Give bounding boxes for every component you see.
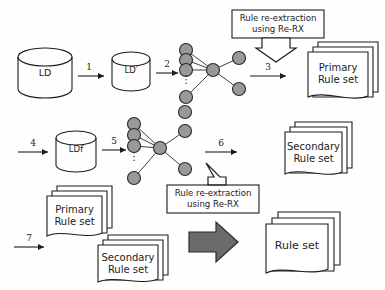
arrow-step-5	[102, 147, 126, 153]
document-stack-final	[266, 212, 340, 273]
block-arrow-right	[189, 222, 238, 262]
network-node	[233, 52, 246, 65]
neural-network-2	[128, 106, 192, 185]
network-node	[128, 140, 141, 153]
network-node	[207, 64, 220, 77]
document-stack-secondary-bottom	[98, 235, 168, 282]
arrow-step-6	[205, 149, 237, 155]
network-node	[128, 172, 141, 185]
database-ldf	[56, 131, 96, 172]
document-stack-primary-bottom	[47, 186, 112, 236]
network-node	[180, 64, 193, 77]
diagram-vector-layer: .st{fill:none;stroke:#1c1c1c;stroke-widt…	[0, 0, 385, 290]
neural-network-1	[180, 44, 246, 104]
arrow-step-1	[78, 73, 104, 79]
arrow-step-2	[156, 70, 178, 76]
network-node	[154, 142, 167, 155]
document-stack-secondary-middle	[285, 122, 352, 174]
network-node	[179, 106, 192, 119]
network-node	[179, 163, 192, 176]
block-arrow-down	[256, 38, 296, 62]
arrow-step-4	[18, 149, 48, 155]
rerx-box-middle	[167, 185, 259, 213]
block-arrow-up	[206, 163, 226, 185]
network-node	[233, 83, 246, 96]
database-ld	[18, 48, 72, 98]
document-stack-primary-top	[308, 42, 378, 98]
arrow-step-3	[250, 73, 286, 79]
arrow-step-7	[14, 244, 44, 250]
network-node	[179, 125, 192, 138]
database-ld-prime	[112, 52, 150, 91]
diagram-canvas: .st{fill:none;stroke:#1c1c1c;stroke-widt…	[0, 0, 385, 290]
network-node	[180, 91, 193, 104]
rerx-box-top	[232, 10, 324, 38]
